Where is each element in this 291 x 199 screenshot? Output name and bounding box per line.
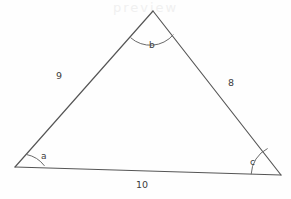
- bottom-edge-line: [15, 167, 281, 175]
- angle-label-b: b: [149, 41, 155, 50]
- angle-label-c: c: [250, 158, 255, 167]
- angle-label-a: a: [41, 152, 47, 161]
- left-edge-line: [15, 11, 153, 167]
- side-label-right: 8: [228, 78, 234, 88]
- triangle-figure: [0, 0, 291, 199]
- side-label-left: 9: [56, 71, 62, 81]
- diagram-canvas: preview 9 8 10 a b c: [0, 0, 291, 199]
- side-label-bottom: 10: [136, 180, 148, 190]
